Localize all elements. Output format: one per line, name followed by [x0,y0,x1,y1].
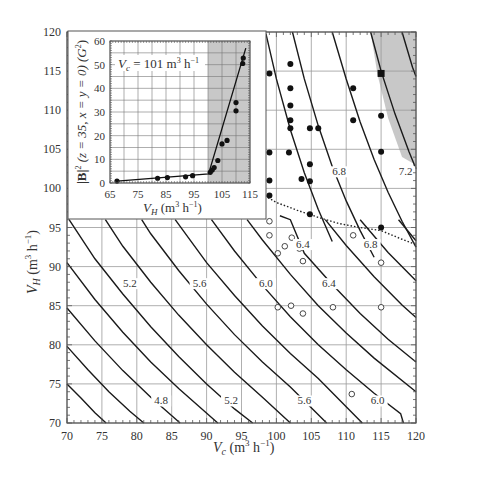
inset-point [165,175,170,180]
contour-line [325,220,416,318]
inset-point [233,100,238,105]
x-tick-label: 75 [96,429,108,443]
x-tick-label: 85 [166,429,178,443]
x-tick-label: 90 [201,429,213,443]
inset-y-tick-label: 40 [94,82,106,94]
filled-point [378,113,384,119]
inset-point [233,108,238,113]
filled-point [287,103,293,109]
contour-label: 5.6 [193,277,207,289]
inset-y-tick-label: 20 [94,130,106,142]
filled-point [299,176,305,182]
open-point [267,233,273,239]
contour-label: 6.4 [322,277,336,289]
inset-annotation: Vc = 101 m3 h−1 [118,56,199,73]
contour-line [69,220,253,423]
x-tick-label: 115 [372,429,390,443]
inset-point [215,158,220,163]
inset-point [224,138,229,143]
y-tick-label: 120 [43,25,61,39]
inset-x-tick-label: 65 [105,188,117,200]
filled-point [287,117,293,123]
y-tick-label: 70 [49,416,61,430]
inset-y-tick-label: 60 [94,35,106,47]
inset-point [212,165,217,170]
open-point [378,304,384,310]
filled-point [266,149,272,155]
inset-y-tick-label: 50 [94,59,106,71]
contour-line [292,32,374,257]
inset-y-tick-label: 30 [94,106,106,118]
contour-label: 4.8 [154,394,168,406]
inset-y-axis-label: |B|2 (z = 35, x = y = 0) (G2) [74,40,89,184]
inset-chart: 657585951051150102030405060 Vc = 101 m3 … [68,31,266,219]
y-tick-label: 105 [43,142,61,156]
inset-point [240,61,245,66]
filled-point [266,192,272,198]
contour-label: 6.8 [364,238,378,250]
contour-label: 6.4 [296,238,310,250]
inset-point [155,176,160,181]
filled-point [315,125,321,131]
filled-point [287,61,293,67]
contour-line [67,384,106,423]
inset-x-tick-label: 105 [214,188,231,200]
square-point [378,70,385,77]
filled-point [266,70,272,76]
contour-label: 5.6 [297,394,311,406]
filled-point [350,117,356,123]
inset-y-tick-label: 0 [100,177,106,189]
contour-label: 6.8 [332,165,346,177]
y-tick-label: 100 [43,181,61,195]
filled-point [307,125,313,131]
x-tick-label: 80 [131,429,143,443]
main-shaded-region [371,32,416,165]
inset-x-tick-label: 75 [133,188,145,200]
filled-point [307,178,313,184]
shaded-region [371,32,416,165]
x-tick-label: 70 [61,429,73,443]
x-tick-label: 120 [407,429,425,443]
filled-point [378,149,384,155]
contour-label: 7.2 [399,165,413,177]
contour-line [211,220,403,423]
y-tick-label: 85 [49,299,61,313]
contour-label: 6.0 [371,394,385,406]
contour-label: 6.0 [259,277,273,289]
main-x-axis-label: Vc (m3 h−1) [213,438,275,457]
x-tick-label: 110 [337,429,355,443]
open-point [350,233,356,239]
inset-x-tick-label: 85 [161,188,173,200]
open-point [282,243,288,249]
inset-point [183,174,188,179]
open-point [330,304,336,310]
filled-point [287,125,293,131]
y-tick-label: 115 [43,64,61,78]
chart: 4.85.25.66.05.25.66.06.46.46.86.87.2 707… [0,0,485,478]
open-point [378,260,384,266]
inset-x-tick-label: 95 [189,188,201,200]
y-tick-label: 110 [43,103,61,117]
y-tick-label: 95 [49,221,61,235]
open-point [300,258,306,264]
filled-point [307,211,313,217]
filled-point [286,149,292,155]
inset-point [241,55,246,60]
contour-line [67,346,144,423]
main-y-axis-label: VH (m3 h−1) [23,230,42,294]
open-point [288,303,294,309]
contour-label: 5.2 [224,394,238,406]
filled-point [287,85,293,91]
inset-y-tick-label: 10 [94,153,106,165]
y-tick-label: 80 [49,338,61,352]
open-point [300,311,306,317]
x-tick-label: 105 [302,429,320,443]
inset-point [190,173,195,178]
open-point [349,391,355,397]
filled-point [378,225,384,231]
filled-point [307,161,313,167]
inset-x-tick-label: 115 [242,188,259,200]
open-point [275,251,281,257]
open-point [267,218,273,224]
open-point [275,304,281,310]
